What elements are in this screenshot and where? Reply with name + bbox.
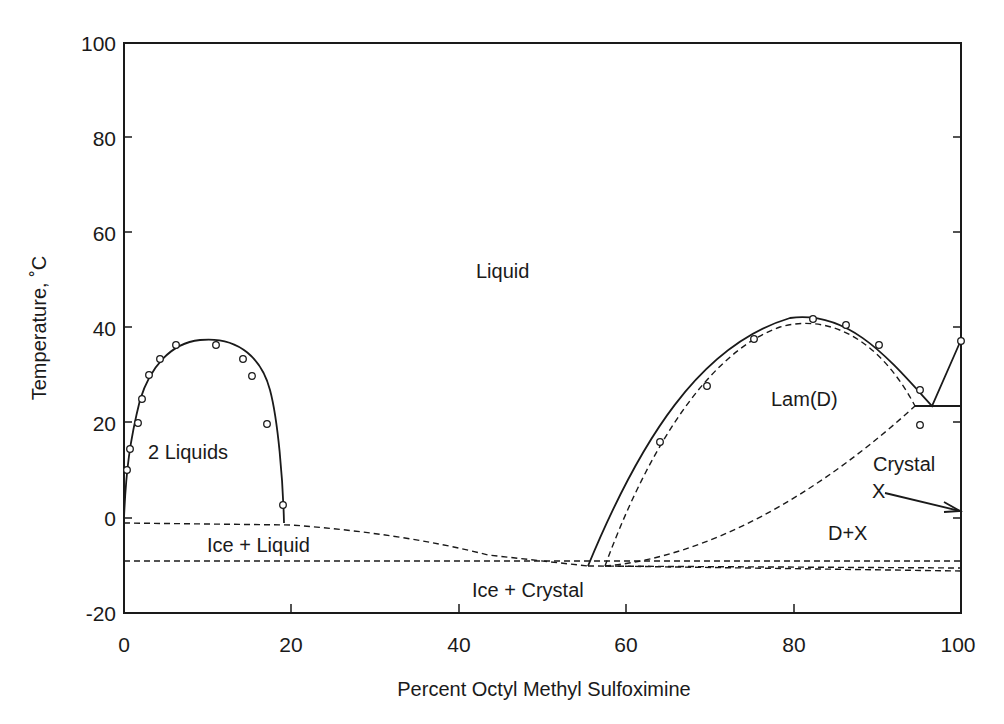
label-liquid: Liquid (476, 260, 529, 282)
lam-liquidus-curve (588, 317, 961, 566)
y-tick-20: 20 (93, 412, 116, 435)
dx-boundary-curve (605, 406, 915, 566)
y-tick-40: 40 (93, 317, 116, 340)
label-crystal: Crystal (873, 453, 935, 475)
x-axis-ticks (291, 604, 794, 613)
label-2-liquids: 2 Liquids (148, 441, 228, 463)
y-axis-title: Temperature, ˚C (28, 256, 50, 401)
region-labels: Liquid 2 Liquids Ice + Liquid Ice + Crys… (148, 260, 935, 601)
data-markers (124, 316, 965, 509)
y-tick-0: 0 (104, 507, 116, 530)
x-tick-40: 40 (447, 633, 470, 656)
label-lam-d: Lam(D) (771, 388, 838, 410)
y-tick-neg20: -20 (86, 602, 116, 625)
y-tick-60: 60 (93, 222, 116, 245)
x-tick-20: 20 (279, 633, 302, 656)
two-liquids-curve (124, 340, 284, 523)
x-axis-tick-labels: 0 20 40 60 80 100 (118, 633, 975, 656)
y-tick-100: 100 (81, 32, 116, 55)
lower-line-1 (588, 566, 961, 568)
y-tick-80: 80 (93, 127, 116, 150)
x-tick-80: 80 (782, 633, 805, 656)
y-axis-ticks (124, 137, 961, 518)
x-arrow-line (885, 493, 960, 511)
y-axis-tick-labels: 100 80 60 40 20 0 -20 (81, 32, 116, 625)
label-ice-crystal: Ice + Crystal (472, 579, 584, 601)
x-tick-100: 100 (940, 633, 975, 656)
label-x: X (872, 480, 885, 502)
label-d-plus-x: D+X (828, 522, 867, 544)
x-axis-title: Percent Octyl Methyl Sulfoximine (397, 678, 690, 700)
x-tick-60: 60 (614, 633, 637, 656)
lam-solidus-curve (605, 323, 915, 566)
phase-diagram: 100 80 60 40 20 0 -20 0 20 40 60 80 100 … (0, 0, 1004, 724)
label-ice-liquid: Ice + Liquid (207, 534, 310, 556)
x-tick-0: 0 (118, 633, 130, 656)
ice-liquidus-curve (124, 523, 588, 566)
